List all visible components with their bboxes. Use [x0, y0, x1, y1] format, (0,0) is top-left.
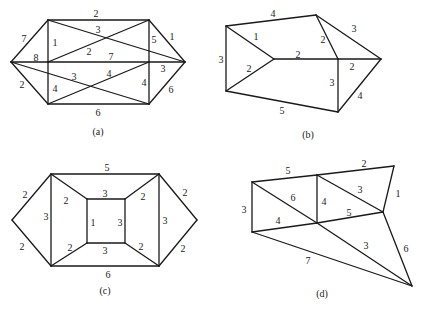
- edge-bl-mr: [48, 62, 149, 104]
- edge-weight-label: 6: [169, 84, 174, 95]
- graph-caption: (d): [316, 288, 328, 300]
- edge-weight-label: 2: [350, 61, 355, 72]
- edge-bl-b: [252, 232, 412, 286]
- edge-weight-label: 3: [242, 204, 247, 215]
- edge-weight-label: 4: [322, 196, 327, 207]
- edge-weight-label: 2: [183, 187, 188, 198]
- edge-weight-label: 3: [44, 211, 49, 222]
- weighted-graph-a: 27187332512434466(a): [11, 8, 185, 138]
- edge-weight-label: 5: [105, 162, 110, 173]
- edge-weight-label: 4: [358, 90, 363, 101]
- edge-weight-label: 2: [139, 241, 144, 252]
- edge-tr-mr: [383, 166, 394, 212]
- edge-weight-label: 2: [87, 46, 92, 57]
- edge-weight-label: 5: [280, 105, 285, 116]
- edge-weight-label: 6: [291, 192, 296, 203]
- edge-tl-r: [48, 20, 185, 62]
- edge-weight-label: 3: [219, 54, 224, 65]
- edge-weight-label: 2: [296, 49, 301, 60]
- edge-tm-tr: [317, 166, 394, 175]
- edge-t-r: [316, 15, 381, 59]
- edge-weight-label: 3: [163, 215, 168, 226]
- edge-weight-label: 2: [68, 242, 73, 253]
- edge-weight-label: 1: [396, 188, 401, 199]
- edge-weight-label: 7: [22, 33, 27, 44]
- edge-weight-label: 6: [106, 269, 111, 280]
- weighted-graph-b: 43122232345(b): [219, 8, 382, 141]
- edge-weight-label: 4: [276, 215, 281, 226]
- graph-caption: (b): [302, 129, 314, 141]
- edge-tl-c: [226, 26, 274, 59]
- edge-weight-label: 2: [362, 158, 367, 169]
- edge-weight-label: 2: [20, 241, 25, 252]
- edge-weight-label: 1: [53, 37, 58, 48]
- edge-weight-label: 1: [170, 31, 175, 42]
- edge-weight-label: 3: [352, 23, 357, 34]
- edge-t-m: [316, 15, 338, 59]
- edge-weight-label: 7: [306, 255, 311, 266]
- edge-weight-label: 2: [247, 63, 252, 74]
- edge-weight-label: 2: [64, 195, 69, 206]
- edge-tr-r: [159, 174, 197, 220]
- edge-weight-label: 1: [91, 217, 96, 228]
- weighted-graph-c: 5223223313223226(c): [12, 162, 197, 297]
- edge-weight-label: 7: [109, 51, 114, 62]
- edge-weight-label: 2: [23, 189, 28, 200]
- edge-weight-label: 4: [271, 8, 276, 19]
- edge-tl-itl: [51, 174, 87, 199]
- edge-weight-label: 3: [72, 71, 77, 82]
- edge-tl-tm: [252, 175, 317, 182]
- weighted-graph-d: 523643145367(d): [242, 158, 413, 300]
- edge-weight-label: 2: [321, 34, 326, 45]
- edge-weight-label: 1: [254, 31, 259, 42]
- edge-weight-label: 5: [152, 34, 157, 45]
- edge-weight-label: 6: [404, 243, 409, 254]
- edge-bl-c: [252, 223, 317, 232]
- edge-weight-label: 4: [107, 68, 112, 79]
- edge-weight-label: 3: [103, 245, 108, 256]
- edge-weight-label: 6: [96, 107, 101, 118]
- edge-l-bl: [12, 220, 51, 266]
- edge-weight-label: 3: [103, 188, 108, 199]
- edge-weight-label: 4: [53, 83, 58, 94]
- edge-weight-label: 2: [20, 79, 25, 90]
- edge-weight-label: 2: [141, 191, 146, 202]
- edge-weight-label: 8: [34, 52, 39, 63]
- graph-caption: (c): [99, 285, 110, 297]
- edge-c-b: [317, 223, 412, 286]
- edge-weight-label: 3: [161, 63, 166, 74]
- edge-weight-label: 3: [358, 184, 363, 195]
- edge-weight-label: 2: [94, 8, 99, 19]
- edge-tl-c: [252, 182, 317, 223]
- edge-weight-label: 2: [181, 243, 186, 254]
- edge-l-br: [11, 62, 149, 104]
- edge-weight-label: 3: [330, 77, 335, 88]
- edge-br-r: [159, 220, 197, 266]
- graph-figure-canvas: 27187332512434466(a) 43122232345(b) 5223…: [0, 0, 423, 310]
- graph-caption: (a): [92, 126, 103, 138]
- edge-weight-label: 4: [142, 77, 147, 88]
- edge-r-b: [338, 59, 381, 112]
- edge-weight-label: 3: [96, 24, 101, 35]
- edge-weight-label: 3: [364, 240, 369, 251]
- edge-l-tl: [11, 20, 48, 62]
- edge-weight-label: 3: [118, 217, 123, 228]
- edge-weight-label: 5: [286, 165, 291, 176]
- edge-weight-label: 5: [347, 207, 352, 218]
- edge-br-r: [149, 62, 185, 104]
